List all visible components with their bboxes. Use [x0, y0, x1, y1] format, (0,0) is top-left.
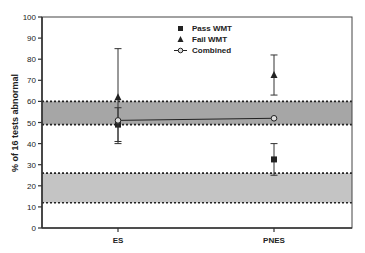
x-axis: ESPNES [42, 228, 352, 245]
legend-label: Combined [192, 46, 231, 55]
y-tick-label: 50 [27, 119, 36, 128]
y-tick-label: 80 [27, 55, 36, 64]
circle-marker-icon [178, 48, 183, 53]
legend-item: Pass WMT [178, 24, 232, 33]
y-tick-label: 0 [32, 224, 37, 233]
y-tick-label: 70 [27, 76, 36, 85]
legend-item: Fail WMT [178, 35, 228, 44]
square-marker-icon [271, 156, 277, 162]
y-tick-label: 60 [27, 97, 36, 106]
series-fail-wmt [115, 49, 278, 144]
y-tick-label: 30 [27, 161, 36, 170]
legend: Pass WMTFail WMTCombined [174, 24, 232, 55]
legend-label: Fail WMT [192, 35, 227, 44]
y-axis-label: % of 16 tests abnormal [10, 74, 20, 172]
reference-bands [42, 101, 352, 202]
legend-label: Pass WMT [192, 24, 232, 33]
x-tick-label: PNES [263, 236, 285, 245]
y-tick-label: 40 [27, 140, 36, 149]
reference-band [42, 173, 352, 203]
triangle-marker-icon [271, 71, 278, 78]
legend-item: Combined [174, 46, 231, 55]
reference-band [42, 101, 352, 124]
triangle-marker-icon [178, 36, 184, 42]
y-tick-label: 100 [23, 13, 37, 22]
chart: 0102030405060708090100 ESPNES Pass WMTFa… [0, 0, 365, 253]
square-marker-icon [178, 26, 183, 31]
y-axis: 0102030405060708090100 [23, 13, 42, 233]
y-tick-label: 10 [27, 203, 36, 212]
triangle-marker-icon [115, 93, 122, 100]
y-tick-label: 20 [27, 182, 36, 191]
y-tick-label: 90 [27, 34, 36, 43]
circle-marker-icon [271, 115, 277, 121]
x-tick-label: ES [113, 236, 124, 245]
circle-marker-icon [115, 118, 121, 124]
